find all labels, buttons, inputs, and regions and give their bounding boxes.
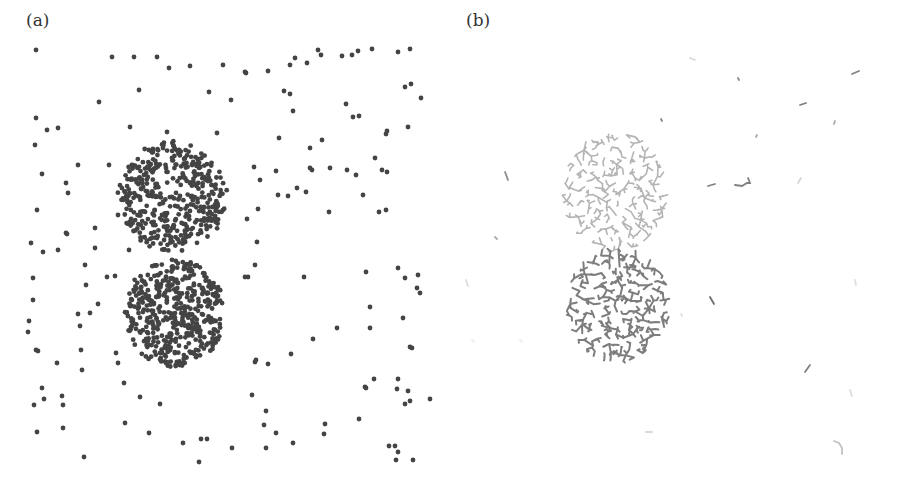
data-point bbox=[114, 351, 119, 356]
data-point bbox=[110, 55, 115, 60]
data-point bbox=[387, 444, 392, 449]
segment bbox=[681, 314, 682, 316]
data-point bbox=[244, 71, 249, 76]
segment bbox=[520, 340, 522, 342]
data-point bbox=[395, 387, 400, 392]
segment bbox=[800, 103, 806, 105]
data-point bbox=[264, 409, 269, 414]
segment bbox=[708, 184, 715, 186]
data-point bbox=[66, 191, 71, 196]
data-point bbox=[253, 360, 258, 365]
data-point bbox=[419, 96, 424, 101]
data-point bbox=[80, 368, 85, 373]
data-point bbox=[93, 246, 98, 251]
data-point bbox=[416, 273, 421, 278]
data-point bbox=[93, 226, 98, 231]
data-point bbox=[277, 136, 282, 141]
segment bbox=[472, 340, 474, 342]
data-point bbox=[155, 55, 160, 60]
data-point bbox=[322, 432, 327, 437]
data-point bbox=[418, 291, 423, 296]
data-point bbox=[408, 47, 413, 52]
data-point bbox=[302, 275, 307, 280]
data-point bbox=[335, 326, 340, 331]
data-point bbox=[401, 316, 406, 321]
data-point bbox=[291, 109, 296, 114]
data-point bbox=[122, 381, 127, 386]
segment bbox=[834, 441, 842, 454]
data-point bbox=[229, 98, 234, 103]
data-point bbox=[35, 430, 40, 435]
data-point bbox=[377, 210, 382, 215]
data-point bbox=[56, 248, 61, 253]
background-points bbox=[26, 47, 433, 465]
data-point bbox=[409, 82, 414, 87]
segment bbox=[756, 135, 757, 137]
data-point bbox=[45, 128, 50, 133]
data-point bbox=[288, 92, 293, 97]
data-point bbox=[428, 397, 433, 402]
data-point bbox=[372, 377, 377, 382]
data-point bbox=[351, 115, 356, 120]
scatter-plot-a bbox=[0, 0, 450, 496]
data-point bbox=[34, 48, 39, 53]
data-point bbox=[350, 53, 355, 58]
data-point bbox=[311, 337, 316, 342]
data-point bbox=[373, 156, 378, 161]
data-point bbox=[276, 193, 281, 198]
data-point bbox=[137, 88, 142, 93]
data-point bbox=[128, 125, 133, 130]
data-point bbox=[344, 102, 349, 107]
data-point bbox=[361, 193, 366, 198]
segment bbox=[735, 178, 750, 186]
data-point bbox=[26, 330, 31, 335]
data-point bbox=[295, 186, 300, 191]
data-point bbox=[411, 458, 416, 463]
data-point bbox=[64, 231, 69, 236]
data-point bbox=[357, 114, 362, 119]
data-point bbox=[29, 241, 34, 246]
data-point bbox=[60, 394, 65, 399]
segment bbox=[805, 365, 810, 372]
data-point bbox=[403, 85, 408, 90]
data-point bbox=[42, 397, 47, 402]
data-point bbox=[293, 56, 298, 61]
data-point bbox=[31, 298, 36, 303]
data-point bbox=[289, 352, 294, 357]
data-point bbox=[250, 393, 255, 398]
data-point bbox=[357, 417, 362, 422]
data-point bbox=[197, 460, 202, 465]
data-point bbox=[316, 48, 321, 53]
data-point bbox=[380, 168, 385, 173]
data-point bbox=[308, 166, 313, 171]
data-point bbox=[274, 169, 279, 174]
data-point bbox=[253, 263, 258, 268]
data-point bbox=[88, 311, 93, 316]
isolated-segments bbox=[466, 58, 859, 454]
data-point bbox=[84, 283, 89, 288]
data-point bbox=[266, 69, 271, 74]
data-point bbox=[167, 66, 172, 71]
data-point bbox=[406, 389, 411, 394]
data-point bbox=[230, 446, 235, 451]
data-point bbox=[274, 431, 279, 436]
data-point bbox=[319, 53, 324, 58]
data-point bbox=[221, 63, 226, 68]
data-point bbox=[327, 210, 332, 215]
data-point bbox=[264, 446, 269, 451]
data-point bbox=[78, 324, 83, 329]
data-point bbox=[252, 165, 257, 170]
data-point bbox=[107, 163, 112, 168]
data-point bbox=[403, 276, 408, 281]
segment bbox=[661, 119, 662, 121]
data-point bbox=[188, 64, 193, 69]
segment bbox=[466, 280, 468, 286]
segment bbox=[855, 280, 856, 285]
data-point bbox=[266, 362, 271, 367]
data-point bbox=[408, 399, 413, 404]
data-point bbox=[27, 319, 32, 324]
data-point bbox=[127, 248, 132, 253]
data-point bbox=[55, 361, 60, 366]
data-point bbox=[132, 55, 137, 60]
segment bbox=[852, 71, 859, 74]
